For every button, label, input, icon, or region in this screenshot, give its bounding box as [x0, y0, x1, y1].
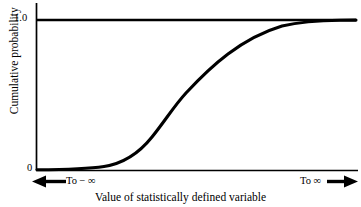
annotation-left-infinity: To − ∞: [66, 176, 96, 187]
left-infinity-arrow-icon: [32, 176, 66, 188]
right-infinity-arrow-icon: [327, 176, 358, 188]
chart-figure: Cumulative probability 1.0 0 Value of st…: [0, 0, 361, 207]
x-axis-title: Value of statistically defined variable: [0, 192, 361, 204]
cumulative-probability-curve: [37, 20, 356, 170]
annotation-right-infinity: To ∞: [300, 176, 321, 187]
y-axis-tick-label-top: 1.0: [14, 13, 27, 24]
y-axis-tick-label-bottom: 0: [27, 163, 32, 174]
